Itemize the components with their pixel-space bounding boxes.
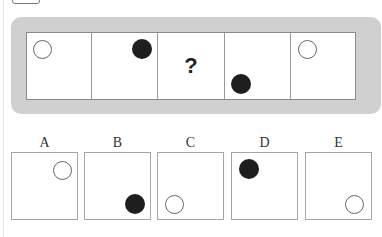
- sequence-cell-5: [291, 33, 356, 99]
- sequence-cell-4: [225, 33, 291, 99]
- sequence-cell-1: [27, 33, 92, 99]
- sequence-strip: ?: [26, 32, 356, 100]
- option-d[interactable]: [231, 152, 298, 220]
- option-a[interactable]: [11, 152, 78, 220]
- option-c[interactable]: [157, 152, 224, 220]
- question-mark: ?: [158, 53, 224, 79]
- filled-circle-icon: [239, 159, 259, 179]
- open-circle-icon: [165, 195, 184, 214]
- page-margin-line: [3, 0, 4, 237]
- open-circle-icon: [298, 40, 317, 59]
- option-a-label: A: [11, 135, 78, 151]
- option-d-label: D: [231, 135, 298, 151]
- question-number-tag: [12, 0, 40, 4]
- open-circle-icon: [345, 195, 364, 214]
- option-e[interactable]: [305, 152, 372, 220]
- sequence-cell-3: ?: [158, 33, 225, 99]
- option-e-label: E: [305, 135, 372, 151]
- sequence-cell-2: [92, 33, 158, 99]
- filled-circle-icon: [231, 74, 251, 94]
- option-c-label: C: [157, 135, 224, 151]
- option-b-label: B: [84, 135, 151, 151]
- option-b[interactable]: [84, 152, 151, 220]
- filled-circle-icon: [125, 194, 145, 214]
- open-circle-icon: [33, 40, 52, 59]
- filled-circle-icon: [132, 39, 152, 59]
- open-circle-icon: [53, 161, 72, 180]
